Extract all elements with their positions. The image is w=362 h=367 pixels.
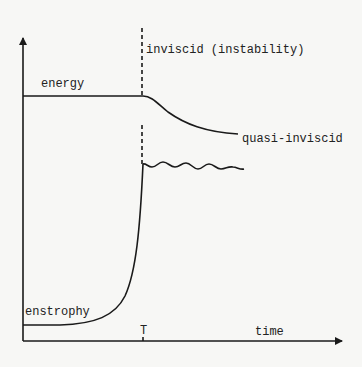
enstrophy-oscillation: [143, 162, 244, 169]
t-label: T: [140, 324, 147, 338]
quasi-inviscid-label: quasi-inviscid: [242, 132, 343, 146]
enstrophy-curve: [23, 164, 143, 325]
inviscid-label: inviscid (instability): [146, 43, 304, 57]
energy-label: energy: [41, 77, 84, 91]
time-label: time: [255, 325, 284, 339]
diagram: inviscid (instability) energy quasi-invi…: [0, 0, 362, 367]
enstrophy-label: enstrophy: [25, 305, 90, 319]
energy-curve: [23, 96, 238, 134]
